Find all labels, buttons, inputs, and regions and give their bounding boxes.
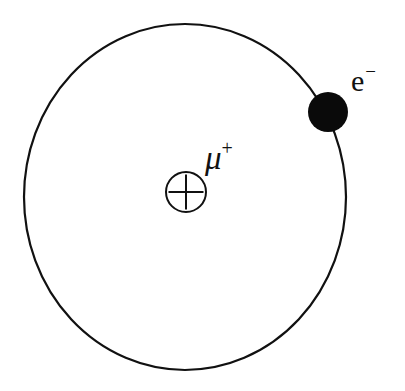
muon-label-base: μ: [205, 140, 222, 176]
muonium-diagram: e− μ+: [0, 0, 405, 391]
electron-label-superscript: −: [365, 61, 375, 82]
muon-label: μ+: [205, 141, 233, 175]
electron-label: e−: [351, 64, 374, 96]
electron-dot: [308, 92, 348, 132]
electron-label-base: e: [351, 64, 364, 97]
atom-diagram-canvas: [0, 0, 405, 391]
muon-nucleus-symbol: [166, 172, 206, 212]
muon-label-superscript: +: [222, 137, 233, 159]
